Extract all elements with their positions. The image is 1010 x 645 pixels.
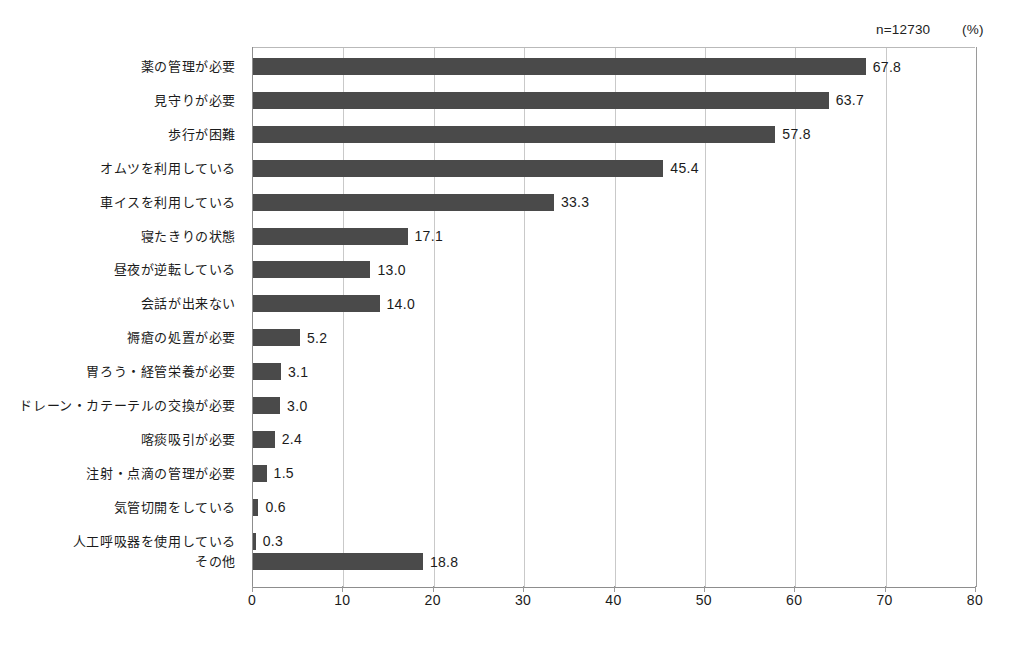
bar: [253, 58, 866, 75]
tick-label-30: 30: [515, 592, 531, 608]
bar-value-label: 5.2: [307, 329, 327, 345]
bar-row: 2.4: [253, 431, 975, 448]
bar: [253, 499, 258, 516]
bar-row: 33.3: [253, 194, 975, 211]
category-label: 薬の管理が必要: [0, 58, 244, 75]
category-label: 昼夜が逆転している: [0, 261, 244, 278]
category-label: 胃ろう・経管栄養が必要: [0, 363, 244, 380]
bar: [253, 295, 380, 312]
category-label: 褥瘡の処置が必要: [0, 329, 244, 346]
bar-value-label: 67.8: [873, 58, 901, 74]
category-label: 見守りが必要: [0, 92, 244, 109]
gridline-80: [976, 47, 977, 587]
tick-label-50: 50: [696, 592, 712, 608]
bar: [253, 160, 663, 177]
bar-chart: n=12730 (%) 薬の管理が必要見守りが必要歩行が困難オムツを利用している…: [0, 0, 1010, 645]
bar: [253, 465, 267, 482]
category-label: 歩行が困難: [0, 126, 244, 143]
category-label: その他: [0, 553, 244, 570]
category-label: 会話が出来ない: [0, 295, 244, 312]
bar-row: 3.0: [253, 397, 975, 414]
bar-value-label: 3.1: [288, 363, 308, 379]
bar: [253, 126, 775, 143]
tick-label-70: 70: [876, 592, 892, 608]
bar-value-label: 0.6: [265, 499, 285, 515]
bar: [253, 228, 408, 245]
category-label: ドレーン・カテーテルの交換が必要: [0, 397, 244, 414]
bar: [253, 363, 281, 380]
sample-size-annotation: n=12730: [876, 22, 930, 37]
value-axis-tick-labels: 01020304050607080: [252, 592, 975, 616]
category-label: 人工呼吸器を使用している: [0, 533, 244, 550]
bar-row: 18.8: [253, 553, 975, 570]
bar-row: 5.2: [253, 329, 975, 346]
bar-row: 17.1: [253, 228, 975, 245]
bar: [253, 397, 280, 414]
category-label: 車イスを利用している: [0, 194, 244, 211]
bar: [253, 194, 554, 211]
bar: [253, 92, 829, 109]
bar-row: 45.4: [253, 160, 975, 177]
unit-annotation: (%): [962, 22, 984, 37]
tick-label-20: 20: [425, 592, 441, 608]
tick-label-80: 80: [967, 592, 983, 608]
tick-label-10: 10: [334, 592, 350, 608]
tick-label-0: 0: [248, 592, 256, 608]
bar-row: 0.3: [253, 533, 975, 550]
category-label: 気管切開をしている: [0, 499, 244, 516]
bar-value-label: 3.0: [287, 397, 307, 413]
plot-area: 67.863.757.845.433.317.113.014.05.23.13.…: [252, 47, 975, 588]
bar-value-label: 57.8: [782, 126, 810, 142]
bar: [253, 431, 275, 448]
bar-row: 13.0: [253, 261, 975, 278]
bar-row: 14.0: [253, 295, 975, 312]
bar-row: 1.5: [253, 465, 975, 482]
bar-value-label: 63.7: [836, 92, 864, 108]
bar-value-label: 18.8: [430, 553, 458, 569]
bar-value-label: 33.3: [561, 194, 589, 210]
bar-row: 63.7: [253, 92, 975, 109]
bar-value-label: 17.1: [415, 228, 443, 244]
bar-value-label: 0.3: [263, 533, 283, 549]
bar-row: 57.8: [253, 126, 975, 143]
bar-row: 3.1: [253, 363, 975, 380]
category-axis-labels: 薬の管理が必要見守りが必要歩行が困難オムツを利用している車イスを利用している寝た…: [0, 47, 244, 588]
bar-row: 67.8: [253, 58, 975, 75]
category-label: オムツを利用している: [0, 160, 244, 177]
bar: [253, 329, 300, 346]
bar-value-label: 14.0: [387, 295, 415, 311]
tick-label-40: 40: [605, 592, 621, 608]
tick-label-60: 60: [786, 592, 802, 608]
bar: [253, 533, 256, 550]
category-label: 寝たきりの状態: [0, 228, 244, 245]
bar-value-label: 13.0: [377, 262, 405, 278]
bar-value-label: 45.4: [670, 160, 698, 176]
category-label: 注射・点滴の管理が必要: [0, 465, 244, 482]
category-label: 喀痰吸引が必要: [0, 431, 244, 448]
bar-row: 0.6: [253, 499, 975, 516]
bar: [253, 261, 370, 278]
bar-value-label: 1.5: [274, 465, 294, 481]
bar: [253, 553, 423, 570]
bar-value-label: 2.4: [282, 431, 302, 447]
